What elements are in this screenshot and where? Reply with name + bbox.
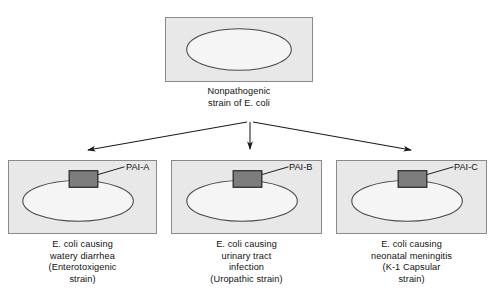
diagram-canvas: Nonpathogenic strain of E. coli PAI-A E.… — [0, 0, 501, 300]
caption-child-1: E. coli causing watery diarrhea (Enterot… — [8, 239, 157, 285]
pai-c-leader-line — [427, 167, 454, 175]
nonpathogenic-e-coli-cell — [165, 17, 313, 82]
arrow-to-left-cell — [88, 122, 247, 150]
arrow-to-right-cell — [253, 122, 411, 150]
pai-a-rect — [69, 171, 98, 188]
caption-parent-cell: Nonpathogenic strain of E. coli — [165, 86, 313, 109]
pai-c-rect — [398, 171, 427, 188]
pai-b-leader-line — [262, 167, 289, 175]
pai-b-label: PAI-B — [289, 162, 312, 173]
pai-a-label: PAI-A — [126, 162, 149, 173]
nucleoid-ellipse-parent — [166, 18, 312, 81]
pai-c-label: PAI-C — [454, 162, 478, 173]
caption-child-2: E. coli causing urinary tract infection … — [171, 239, 322, 285]
pai-a-leader-line — [98, 167, 125, 175]
pai-b-rect — [233, 171, 262, 188]
caption-child-3: E. coli causing neonatal meningitis (K-1… — [336, 239, 487, 285]
